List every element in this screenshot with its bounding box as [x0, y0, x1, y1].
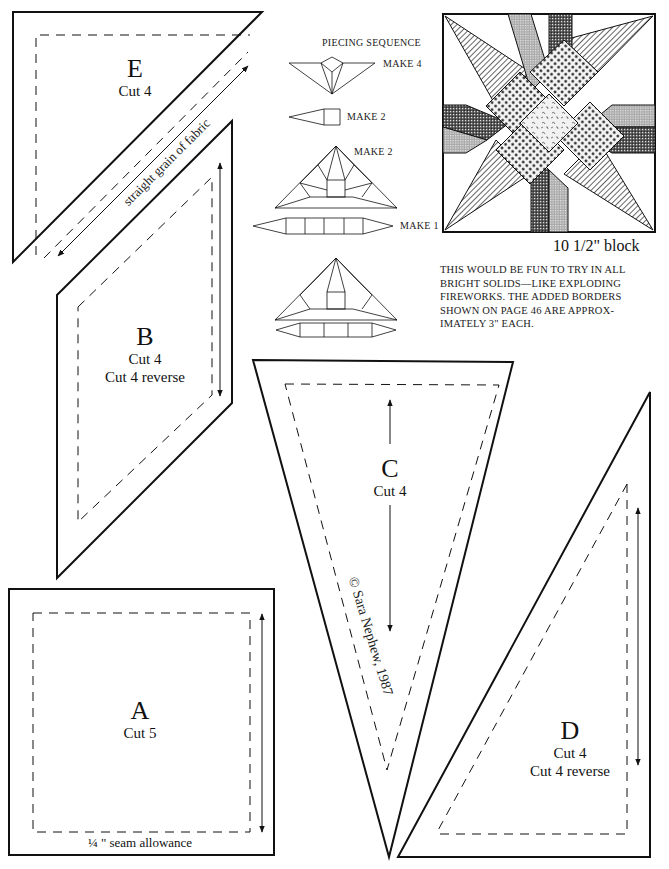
piece-e-letter: E [95, 56, 175, 82]
piece-b-cut-reverse: Cut 4 reverse [90, 368, 200, 386]
piece-d-cut: Cut 4 [510, 744, 630, 762]
piece-a-label: A Cut 5 [100, 698, 180, 742]
piece-b-label: B Cut 4 Cut 4 reverse [90, 324, 200, 386]
piece-e-label: E Cut 4 [95, 56, 175, 100]
piece-c-cut: Cut 4 [355, 482, 425, 500]
piece-c-letter: C [355, 456, 425, 482]
piece-a-letter: A [100, 698, 180, 724]
note-text: THIS WOULD BE FUN TO TRY IN ALL BRIGHT S… [440, 263, 655, 331]
quilt-block [443, 14, 655, 232]
make-2b-label: MAKE 2 [354, 146, 393, 157]
piece-b-cut: Cut 4 [90, 350, 200, 368]
piece-d-label: D Cut 4 Cut 4 reverse [510, 718, 630, 780]
block-caption: 10 1/2" block [553, 237, 640, 255]
piecing-diagrams [253, 57, 397, 337]
piece-d-letter: D [510, 718, 630, 744]
piece-d [398, 392, 650, 857]
make-2a-label: MAKE 2 [347, 111, 386, 122]
piece-c-label: C Cut 4 [355, 456, 425, 500]
piecing-title: PIECING SEQUENCE [322, 37, 421, 48]
piece-b-letter: B [90, 324, 200, 350]
piece-a-cut: Cut 5 [100, 724, 180, 742]
seam-allowance-note: ¼ " seam allowance [70, 834, 210, 852]
make-1-label: MAKE 1 [400, 220, 439, 231]
make-4-label: MAKE 4 [383, 58, 422, 69]
piece-c [253, 360, 513, 857]
piece-d-cut-reverse: Cut 4 reverse [510, 762, 630, 780]
piece-e [13, 12, 262, 262]
piece-e-cut: Cut 4 [95, 82, 175, 100]
